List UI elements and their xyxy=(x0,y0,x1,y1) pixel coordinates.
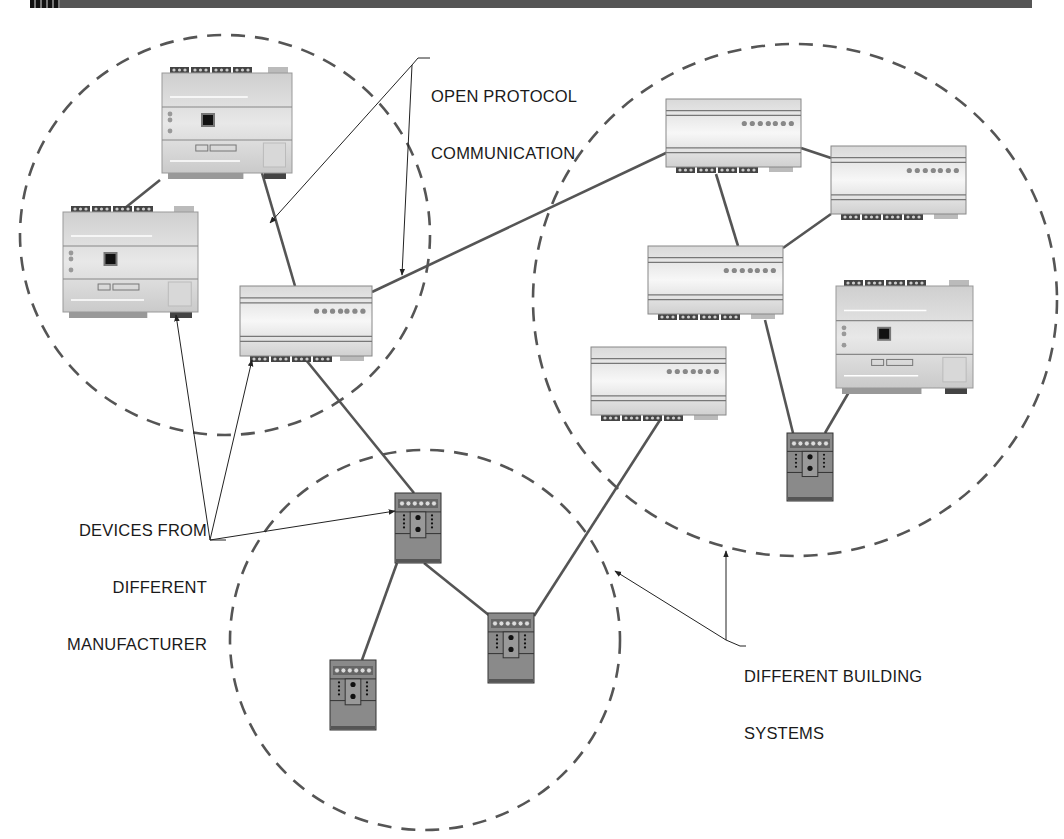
label-line: DIFFERENT BUILDING xyxy=(744,667,922,686)
label-line: DIFFERENT xyxy=(40,578,207,597)
device-small-device-center xyxy=(395,493,441,563)
network-connections xyxy=(120,148,856,660)
network-link xyxy=(362,563,397,660)
network-link xyxy=(716,174,738,246)
device-module-right-low xyxy=(591,347,726,421)
device-small-device-bottom-left xyxy=(330,660,376,730)
network-link xyxy=(306,360,414,493)
device-controller-left xyxy=(63,206,198,318)
callout-arrow xyxy=(210,511,395,540)
network-link xyxy=(262,173,295,286)
label-line: SYSTEMS xyxy=(744,724,922,743)
callout-arrow xyxy=(402,65,412,275)
device-small-device-right xyxy=(787,433,833,501)
label-devices-different-manufacturer: DEVICES FROM DIFFERENT MANUFACTURER xyxy=(40,483,207,673)
network-link xyxy=(783,214,831,248)
device-module-right-center xyxy=(648,246,783,320)
label-different-building-systems: DIFFERENT BUILDING SYSTEMS xyxy=(744,629,922,762)
device-module-right-mid xyxy=(831,146,966,220)
device-module-center xyxy=(240,286,372,362)
device-small-device-bottom-mid xyxy=(488,613,534,683)
label-line: OPEN PROTOCOL xyxy=(431,87,577,106)
label-line: MANUFACTURER xyxy=(40,635,207,654)
network-link xyxy=(801,148,831,158)
label-line: DEVICES FROM xyxy=(40,521,207,540)
network-link xyxy=(424,563,490,616)
label-open-protocol: OPEN PROTOCOL COMMUNICATION xyxy=(431,49,577,182)
device-controller-right xyxy=(836,280,973,394)
device-controller-top-left xyxy=(162,67,292,179)
network-link xyxy=(765,320,793,433)
label-line: COMMUNICATION xyxy=(431,144,577,163)
callout-arrow xyxy=(210,360,252,540)
device-module-right-top xyxy=(666,99,801,173)
network-link xyxy=(534,420,660,616)
callout-arrow xyxy=(615,571,726,640)
